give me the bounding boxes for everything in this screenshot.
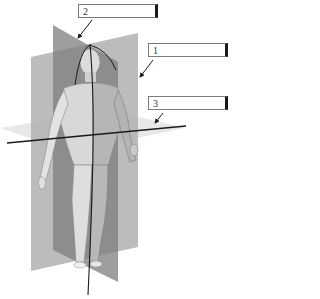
label-box-2[interactable]: 2 xyxy=(78,4,158,18)
label-number-2: 2 xyxy=(83,5,88,18)
label-box-1[interactable]: 1 xyxy=(148,43,228,57)
arrow-3 xyxy=(155,113,163,123)
arrow-2 xyxy=(78,20,92,38)
arrow-1 xyxy=(140,60,153,77)
label-number-3: 3 xyxy=(153,97,158,110)
label-number-1: 1 xyxy=(153,44,158,57)
label-box-3[interactable]: 3 xyxy=(148,96,228,110)
